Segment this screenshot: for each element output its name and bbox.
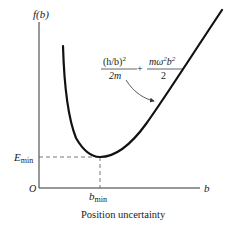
x-axis-label: b [204,182,210,194]
svg-text:(h/b)2: (h/b)2 [103,55,126,68]
e-min-label: Emin [13,151,33,165]
formula-pointer-arrow [126,80,154,101]
y-axis-label: f(b) [33,8,49,21]
svg-text:mω2b2: mω2b2 [149,55,176,67]
svg-text:2: 2 [161,70,166,81]
energy-formula: (h/b)2 2m + mω2b2 2 [101,55,182,81]
svg-text:2m: 2m [109,70,121,81]
origin-label: O [29,183,36,194]
x-axis-caption: Position uncertainty [81,209,166,220]
svg-text:+: + [137,63,143,74]
energy-vs-position-diagram: f(b) O b Emin bmin Position uncertainty … [0,0,233,227]
b-min-label: bmin [89,190,107,204]
energy-curve [63,10,222,157]
